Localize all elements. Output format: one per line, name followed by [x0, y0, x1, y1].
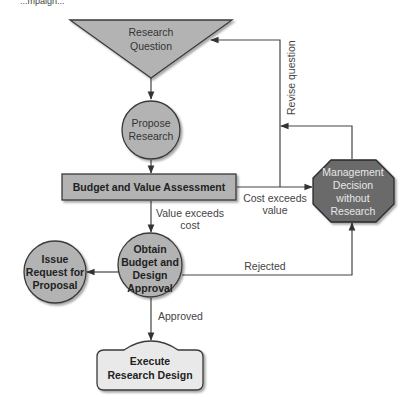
issue-rfp-line3: Proposal	[33, 279, 78, 291]
node-execute-research-design: Execute Research Design	[97, 341, 203, 390]
management-decision-line1: Management	[322, 166, 383, 178]
obtain-approval-line2: Budget and	[121, 256, 179, 268]
management-decision-line2: Decision	[333, 179, 373, 191]
label-revise-question: Revise question	[285, 40, 297, 115]
execute-line1: Execute	[130, 355, 170, 367]
research-question-line1: Research	[129, 26, 174, 38]
propose-research-line2: Research	[129, 130, 174, 142]
node-propose-research: Propose Research	[122, 101, 180, 159]
node-budget-value-assessment: Budget and Value Assessment	[62, 174, 236, 200]
budget-value-label: Budget and Value Assessment	[73, 181, 226, 193]
issue-rfp-line1: Issue	[42, 253, 69, 265]
execute-line2: Research Design	[107, 369, 192, 381]
propose-research-line1: Propose	[131, 117, 170, 129]
node-management-decision: Management Decision without Research	[313, 160, 394, 222]
label-value-exceeds-line2: cost	[180, 219, 199, 231]
research-process-flowchart: ...mpaign... Research Question Propose R…	[0, 0, 413, 412]
obtain-approval-line3: Design	[132, 269, 167, 281]
edge-management-to-revise	[281, 126, 352, 159]
management-decision-line4: Research	[331, 205, 376, 217]
issue-rfp-line2: Request for	[26, 266, 84, 278]
label-value-exceeds-line1: Value exceeds	[156, 207, 224, 219]
label-rejected: Rejected	[244, 260, 286, 272]
node-issue-rfp: Issue Request for Proposal	[24, 241, 86, 303]
cropped-caption: ...mpaign...	[20, 0, 65, 6]
label-approved: Approved	[158, 310, 203, 322]
node-research-question: Research Question	[70, 20, 232, 78]
obtain-approval-line1: Obtain	[133, 243, 166, 255]
label-cost-exceeds-line2: value	[262, 204, 287, 216]
node-obtain-approval: Obtain Budget and Design Approval	[118, 233, 182, 297]
obtain-approval-line4: Approval	[127, 282, 173, 294]
edge-revise-question	[211, 40, 280, 187]
management-decision-line3: without	[335, 192, 369, 204]
research-question-line2: Question	[130, 40, 172, 52]
label-cost-exceeds-line1: Cost exceeds	[243, 192, 307, 204]
